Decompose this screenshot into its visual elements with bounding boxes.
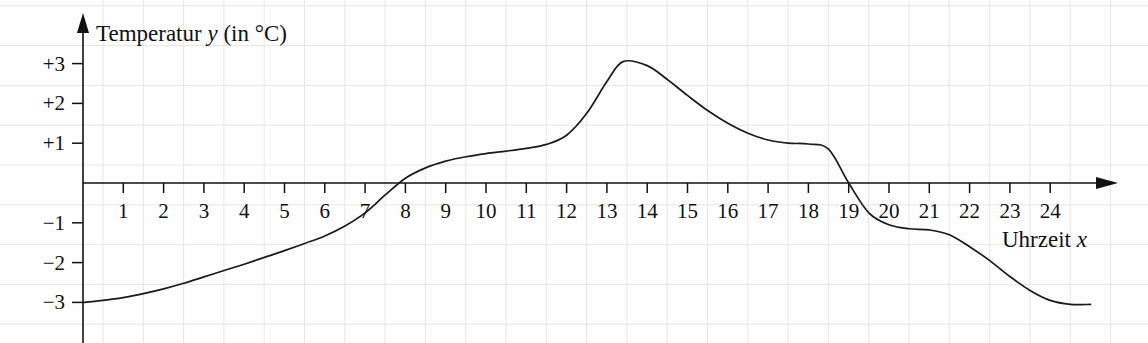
y-axis-title-unit: (in °C) — [223, 21, 287, 46]
temperature-chart-figure: Temperatur y (in °C) Uhrzeit x 123456789… — [0, 0, 1148, 343]
x-axis-tick-label: 13 — [596, 201, 617, 222]
x-axis-tick-label: 14 — [637, 201, 658, 222]
y-axis-arrow-icon — [77, 13, 89, 33]
y-axis-tick-label: −1 — [11, 212, 65, 233]
x-axis-arrow-icon — [1096, 177, 1118, 189]
x-axis-title-variable: x — [1077, 227, 1087, 252]
y-axis-tick-label: −3 — [11, 292, 65, 313]
chart-canvas — [0, 0, 1148, 343]
x-axis-tick-label: 16 — [717, 201, 738, 222]
x-axis-tick-label: 7 — [360, 201, 371, 222]
axes-group — [77, 13, 1118, 343]
y-axis-tick-label: +3 — [11, 53, 65, 74]
x-axis-tick-label: 1 — [118, 201, 129, 222]
x-axis-title-main: Uhrzeit — [1002, 227, 1071, 252]
x-axis-tick-label: 17 — [758, 201, 779, 222]
x-axis-tick-label: 2 — [158, 201, 169, 222]
x-axis-tick-label: 5 — [279, 201, 290, 222]
x-axis-tick-label: 15 — [677, 201, 698, 222]
y-axis-tick-label: +2 — [11, 93, 65, 114]
y-axis-title-variable: y — [207, 21, 217, 46]
x-axis-tick-label: 19 — [838, 201, 859, 222]
y-axis-tick-marks — [72, 64, 83, 303]
x-axis-tick-label: 24 — [1040, 201, 1061, 222]
y-axis-tick-label: −2 — [11, 252, 65, 273]
y-axis-tick-label: +1 — [11, 133, 65, 154]
x-axis-tick-label: 22 — [959, 201, 980, 222]
x-axis-tick-label: 23 — [999, 201, 1020, 222]
x-axis-tick-label: 3 — [199, 201, 210, 222]
y-axis-title: Temperatur y (in °C) — [96, 22, 287, 45]
x-axis-tick-label: 8 — [400, 201, 411, 222]
x-axis-tick-label: 4 — [239, 201, 250, 222]
x-axis-tick-label: 11 — [516, 201, 536, 222]
y-axis-title-main: Temperatur — [96, 21, 202, 46]
x-axis-tick-label: 6 — [320, 201, 331, 222]
x-axis-tick-label: 20 — [879, 201, 900, 222]
x-axis-tick-label: 18 — [798, 201, 819, 222]
background-grid — [0, 0, 1148, 343]
x-axis-tick-label: 12 — [556, 201, 577, 222]
x-axis-tick-label: 21 — [919, 201, 940, 222]
x-axis-tick-label: 9 — [440, 201, 451, 222]
x-axis-tick-label: 10 — [476, 201, 497, 222]
x-axis-title: Uhrzeit x — [1002, 228, 1087, 251]
